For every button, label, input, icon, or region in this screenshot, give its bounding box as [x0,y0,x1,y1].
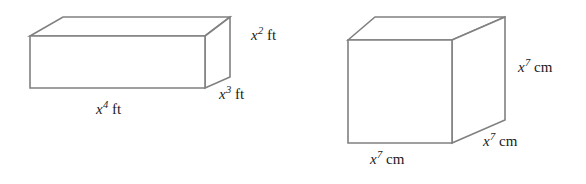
geometry-figure-page: x2ft x3ft x4ft x7cm x7cm x7cm [0,0,586,184]
cube-depth-exponent: 7 [490,131,495,142]
cube-height-variable: x [518,59,525,75]
cube-depth-variable: x [483,133,490,149]
cube-width-variable: x [370,151,377,167]
cube-depth-unit: cm [499,133,517,149]
cube-depth-label: x7cm [483,134,517,149]
cube-height-exponent: 7 [525,57,530,68]
cube-front-face [348,40,452,143]
cube-width-unit: cm [386,151,404,167]
cube-figure: x7cm x7cm x7cm [0,0,586,184]
cube-width-label: x7cm [370,152,404,167]
cube-right-face [452,17,505,143]
cube-width-exponent: 7 [377,149,382,160]
cube-drawing [0,0,586,184]
cube-height-unit: cm [534,59,552,75]
cube-height-label: x7cm [518,60,552,75]
